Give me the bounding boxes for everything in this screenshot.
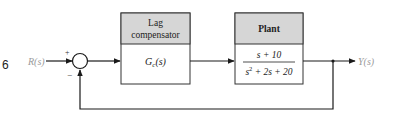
plant-title: Plant <box>258 24 280 34</box>
plant-denominator: s2 + 2s + 20 <box>245 65 292 77</box>
plus-sign: + <box>65 48 70 57</box>
plant-numerator: s + 10 <box>257 50 282 60</box>
summing-junction <box>73 54 88 69</box>
figure-number-fragment: 6 <box>2 58 9 72</box>
output-label: Y(s) <box>358 56 375 68</box>
input-label: R(s) <box>27 56 45 68</box>
lag-compensator-block: Lag compensator Gc(s) <box>121 13 190 84</box>
lag-compensator-title-line2: compensator <box>131 30 180 40</box>
minus-sign: − <box>67 70 72 80</box>
plant-block: Plant s + 10 s2 + 2s + 20 <box>235 13 303 84</box>
block-diagram: 6 R(s) + − Lag compensator Gc(s) Plant s… <box>0 0 399 121</box>
lag-compensator-title-line1: Lag <box>148 18 163 28</box>
